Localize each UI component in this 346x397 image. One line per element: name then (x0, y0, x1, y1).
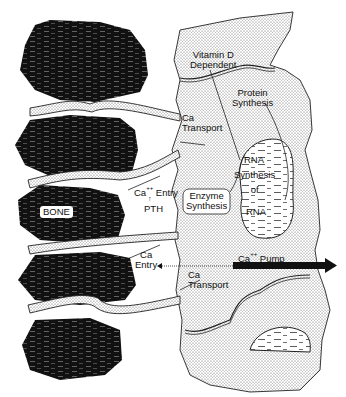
label-enzyme-synthesis: Enzyme Synthesis (186, 191, 227, 211)
label-ca-entry-upper: Ca++ Entry (134, 183, 178, 198)
label-ca-pump: Ca++ Pump (238, 249, 285, 264)
label-rna-top: RNA (244, 155, 264, 165)
label-ca-transport-upper: Ca Transport (182, 113, 222, 133)
label-vitamin-d-dependent: Vitamin D Dependent (190, 50, 236, 70)
label-rna-bottom: RNA (246, 207, 266, 217)
label-ca-entry-lower: Ca Entry (135, 250, 157, 270)
bone-mass (15, 20, 148, 380)
label-synthesis-of: Synthesis of (234, 170, 275, 195)
label-pth: PTH (144, 204, 163, 214)
label-ca-transport-lower: Ca Transport (188, 270, 228, 290)
label-bone: BONE (40, 206, 73, 218)
diagram-graphics (0, 0, 346, 397)
label-protein-synthesis: Protein Synthesis (232, 88, 273, 108)
diagram-canvas: Vitamin D Dependent Protein Synthesis Ca… (0, 0, 346, 397)
